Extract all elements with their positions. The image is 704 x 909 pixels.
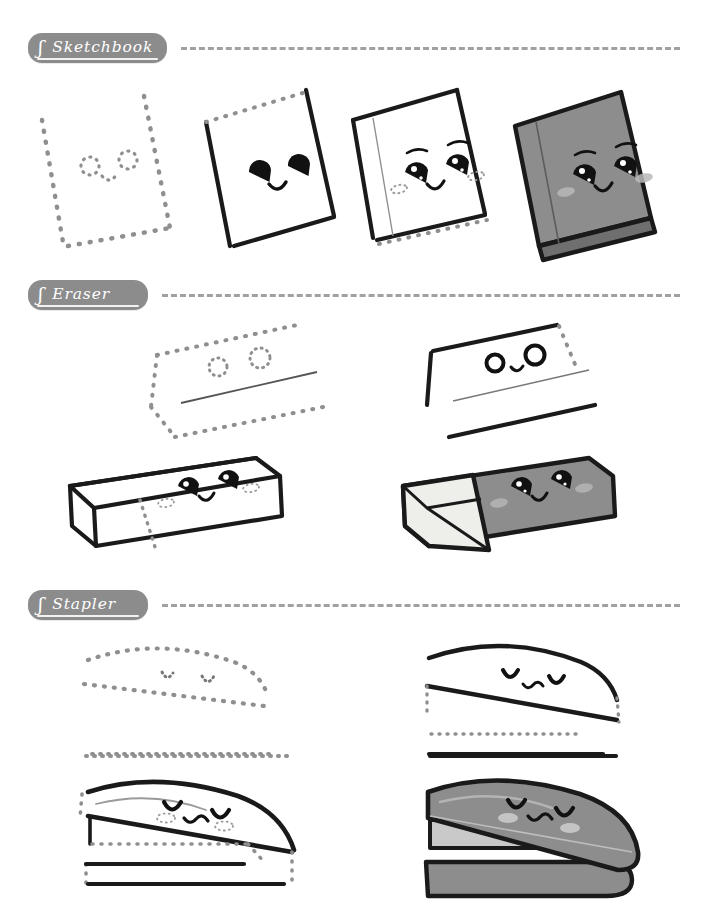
flourish-icon: ʃ [38,595,43,614]
section-label-text: Sketchbook [52,38,153,56]
stapler-step-3 [52,752,332,904]
eraser-step-2 [425,325,615,440]
section-divider [162,294,680,297]
section-label-stapler: ʃ Stapler [28,590,148,620]
eraser-step-3 [60,450,310,560]
section-header-stapler: ʃ Stapler [28,590,680,620]
section-label-eraser: ʃ Eraser [28,280,148,310]
section-label-text: Stapler [52,595,116,613]
eraser-step-1 [145,325,335,440]
tutorial-page: ʃ Sketchbook [0,0,704,909]
flourish-icon: ʃ [38,38,43,57]
eraser-step-4 [393,450,643,560]
section-label-sketchbook: ʃ Sketchbook [28,33,167,63]
section-header-eraser: ʃ Eraser [28,280,680,310]
sketchbook-step-1 [24,88,194,258]
sketchbook-step-3 [345,86,500,266]
section-label-text: Eraser [52,285,110,303]
section-divider [181,47,680,50]
sketchbook-step-4 [503,86,678,266]
flourish-icon: ʃ [38,285,43,304]
stapler-step-4 [392,752,682,904]
sketchbook-step-2 [200,86,350,261]
stapler-step-1 [62,632,292,757]
stapler-step-2 [403,632,643,757]
section-divider [162,604,680,607]
section-header-sketchbook: ʃ Sketchbook [28,33,680,63]
